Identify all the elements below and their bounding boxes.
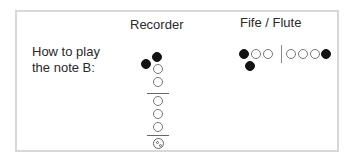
fife-pinky-key-closed <box>321 49 331 59</box>
fife-hole-3-open <box>263 49 273 59</box>
note-prompt: How to play the note B: <box>32 44 100 76</box>
recorder-thumb-hole-closed <box>141 59 151 69</box>
recorder-hole-4-open <box>153 96 163 106</box>
recorder-hole-1-closed <box>152 52 162 62</box>
fife-hole-6-open <box>310 49 320 59</box>
fife-hole-5-open <box>298 49 308 59</box>
fife-hole-2-open <box>251 49 261 59</box>
note-prompt-line-2: the note B: <box>32 60 100 76</box>
fife-hand-divider <box>281 45 282 63</box>
recorder-hole-5-open <box>153 109 163 119</box>
recorder-bell-divider <box>147 135 169 136</box>
fife-hole-4-open <box>286 49 296 59</box>
recorder-bell-hole-icon <box>153 138 164 149</box>
fife-thumb-closed <box>245 61 255 71</box>
recorder-hand-divider <box>147 93 169 94</box>
fife-flute-header: Fife / Flute <box>240 15 301 30</box>
recorder-header: Recorder <box>130 17 183 32</box>
note-prompt-line-1: How to play <box>32 44 100 60</box>
recorder-hole-6-open <box>153 122 163 132</box>
recorder-hole-2-open <box>153 64 163 74</box>
recorder-hole-3-open <box>153 77 163 87</box>
fife-hole-1-closed <box>239 49 249 59</box>
